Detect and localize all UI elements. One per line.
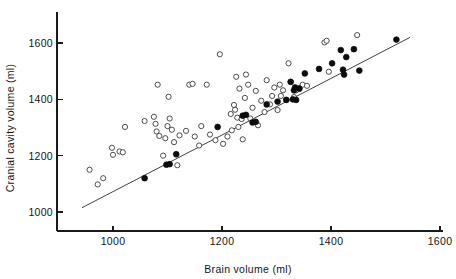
data-point-open <box>240 137 245 142</box>
plot-canvas: 1000120014001600 1000120014001600 Brain … <box>0 0 456 279</box>
data-point-open <box>199 123 204 128</box>
data-point-filled <box>394 37 400 43</box>
data-point-open <box>161 153 166 158</box>
data-point-open <box>167 116 172 121</box>
open-circle-series <box>87 33 360 187</box>
data-point-filled <box>264 102 270 108</box>
data-point-open <box>165 123 170 128</box>
data-point-open <box>177 133 182 138</box>
data-point-open <box>355 33 360 38</box>
data-point-open <box>225 134 230 139</box>
data-point-open <box>217 52 222 57</box>
data-point-open <box>190 81 195 86</box>
x-axis-ticks <box>113 226 440 231</box>
data-point-open <box>109 145 114 150</box>
data-point-filled <box>356 68 362 74</box>
data-point-filled <box>302 71 308 77</box>
data-point-open <box>253 88 258 93</box>
data-point-filled <box>293 97 299 103</box>
y-tick-label: 1000 <box>28 206 53 218</box>
data-point-open <box>243 72 248 77</box>
data-point-open <box>142 118 147 123</box>
data-point-open <box>87 167 92 172</box>
data-point-open <box>278 93 283 98</box>
y-axis-title: Cranial cavity volume (ml) <box>4 64 16 193</box>
x-tick-labels: 1000120014001600 <box>101 235 453 247</box>
data-point-open <box>163 136 168 141</box>
data-point-open <box>326 69 331 74</box>
data-point-open <box>155 82 160 87</box>
x-tick-label: 1600 <box>428 235 453 247</box>
data-point-open <box>157 133 162 138</box>
data-point-filled <box>329 60 335 66</box>
data-point-open <box>237 86 242 91</box>
x-tick-label: 1400 <box>319 235 344 247</box>
data-point-open <box>242 95 247 100</box>
data-point-open <box>220 141 225 146</box>
y-axis-ticks <box>57 43 63 212</box>
data-point-filled <box>341 72 347 78</box>
data-point-filled <box>343 54 349 60</box>
data-point-filled <box>351 46 357 52</box>
data-point-open <box>272 85 277 90</box>
data-point-filled <box>142 175 148 181</box>
scatter-plot-figure: 1000120014001600 1000120014001600 Brain … <box>0 0 456 279</box>
x-axis-title: Brain volume (ml) <box>204 263 291 275</box>
x-tick-label: 1200 <box>210 235 235 247</box>
filled-circle-series <box>142 37 400 181</box>
data-point-open <box>95 182 100 187</box>
data-point-open <box>250 105 255 110</box>
data-point-filled <box>288 79 294 85</box>
regression-line-segment <box>82 37 410 207</box>
data-point-open <box>110 152 115 157</box>
data-point-open <box>228 111 233 116</box>
data-point-filled <box>316 66 322 72</box>
data-point-open <box>183 128 188 133</box>
data-point-open <box>153 121 158 126</box>
data-point-filled <box>275 99 281 105</box>
data-point-open <box>262 109 267 114</box>
data-point-open <box>280 88 285 93</box>
x-tick-label: 1000 <box>101 235 126 247</box>
data-point-open <box>229 128 234 133</box>
data-point-filled <box>215 124 221 130</box>
data-point-filled <box>253 119 259 125</box>
data-point-filled <box>283 97 289 103</box>
data-point-open <box>151 114 156 119</box>
y-tick-labels: 1000120014001600 <box>28 37 53 218</box>
y-tick-label: 1400 <box>28 93 53 105</box>
data-point-open <box>120 150 125 155</box>
data-point-open <box>207 132 212 137</box>
data-point-open <box>204 82 209 87</box>
y-tick-label: 1600 <box>28 37 53 49</box>
y-tick-label: 1200 <box>28 150 53 162</box>
data-point-open <box>101 176 106 181</box>
data-point-open <box>246 82 251 87</box>
data-point-open <box>192 134 197 139</box>
data-point-open <box>197 143 202 148</box>
data-point-open <box>236 124 241 129</box>
data-point-open <box>213 138 218 143</box>
data-point-open <box>234 74 239 79</box>
data-point-open <box>171 140 176 145</box>
data-point-open <box>166 94 171 99</box>
data-point-open <box>304 83 309 88</box>
data-point-open <box>286 61 291 66</box>
data-point-filled <box>173 151 179 157</box>
data-point-open <box>232 107 237 112</box>
data-point-open <box>277 82 282 87</box>
data-point-open <box>270 93 275 98</box>
data-point-filled <box>338 47 344 53</box>
data-point-filled <box>167 161 173 167</box>
data-point-open <box>231 102 236 107</box>
data-point-open <box>264 78 269 83</box>
data-point-open <box>122 124 127 129</box>
data-point-open <box>175 163 180 168</box>
data-point-open <box>275 107 280 112</box>
data-point-filled <box>296 86 302 92</box>
data-point-open <box>259 98 264 103</box>
regression-line <box>82 37 410 207</box>
data-point-open <box>169 127 174 132</box>
data-point-open <box>324 38 329 43</box>
data-point-filled <box>243 112 249 118</box>
